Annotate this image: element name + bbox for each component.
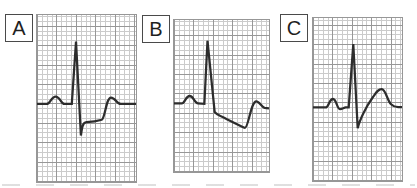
panel-c-label-box: C (280, 14, 308, 42)
panel-b-grid (173, 19, 270, 173)
scan-artifact (2, 184, 415, 186)
panel-c-grid (312, 17, 403, 182)
panel-b-ecg-trace (174, 20, 269, 172)
panel-b-label: B (149, 19, 162, 39)
panel-a-ecg-trace (37, 15, 136, 182)
panel-c-ecg-trace (313, 18, 402, 181)
panel-b-label-box: B (142, 15, 170, 43)
panel-c-label: C (287, 18, 301, 38)
panel-c-waveform (313, 44, 402, 128)
panel-a-label: A (12, 18, 25, 38)
panel-a-label-box: A (5, 14, 33, 42)
panel-a-grid (36, 14, 137, 183)
panel-a-waveform (37, 42, 136, 136)
ecg-comparison-figure: A B C (0, 0, 417, 188)
panel-b-waveform (174, 41, 269, 128)
